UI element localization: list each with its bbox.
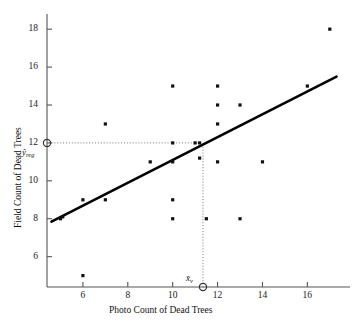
data-point <box>198 141 201 144</box>
data-point <box>306 84 309 87</box>
x-tick-label: 10 <box>161 290 185 300</box>
scatter-plot-figure <box>0 0 356 322</box>
y-tick-label: 16 <box>14 61 38 71</box>
data-point <box>194 141 197 144</box>
data-point <box>104 122 107 125</box>
x-axis-title: Photo Count of Dead Trees <box>109 305 212 315</box>
data-point <box>61 215 64 218</box>
data-point <box>216 84 219 87</box>
y-tick-label: 6 <box>14 251 38 261</box>
data-point <box>216 122 219 125</box>
y-axis-title: Field Count of Dead Trees <box>13 127 23 228</box>
data-point <box>81 198 84 201</box>
data-point <box>81 274 84 277</box>
data-point <box>261 160 264 163</box>
x-tick-label: 8 <box>116 290 140 300</box>
data-point <box>171 198 174 201</box>
data-point <box>149 160 152 163</box>
data-point <box>216 160 219 163</box>
data-points-group <box>59 28 332 278</box>
y-hat-reg-annotation: ŷreg <box>22 147 34 158</box>
y-hat-reg-subscript: reg <box>26 151 34 158</box>
y-tick-label: 14 <box>14 99 38 109</box>
data-point <box>198 156 201 159</box>
data-point <box>171 217 174 220</box>
x-bar-v-subscript: v <box>190 277 193 284</box>
x-tick-label: 14 <box>250 290 274 300</box>
x-axis-ticks <box>83 282 307 287</box>
data-point <box>328 28 331 31</box>
data-point <box>238 103 241 106</box>
data-point <box>216 103 219 106</box>
data-point <box>104 198 107 201</box>
x-tick-label: 6 <box>71 290 95 300</box>
data-point <box>171 160 174 163</box>
data-point <box>205 217 208 220</box>
data-point <box>238 217 241 220</box>
data-point <box>171 141 174 144</box>
y-tick-label: 18 <box>14 23 38 33</box>
x-bar-v-annotation: x̄v <box>186 273 193 284</box>
x-tick-label: 16 <box>295 290 319 300</box>
data-point <box>171 84 174 87</box>
x-tick-label: 12 <box>206 290 230 300</box>
regression-line <box>51 77 336 222</box>
